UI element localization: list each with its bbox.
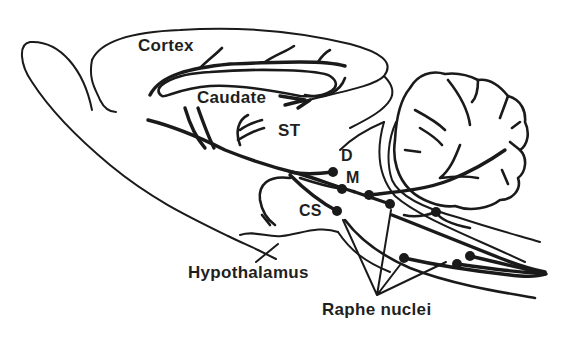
midbrain-outline	[340, 76, 392, 150]
olfactory-bulb-divider	[91, 60, 116, 112]
cerebellum-folia	[405, 80, 520, 184]
cortex-branch-3	[318, 50, 330, 62]
spinal-bundle-upper	[392, 215, 545, 272]
brain-diagram: Cortex Caudate ST D M CS Hypothalamus Ra…	[0, 0, 566, 338]
medial-forebrain-bundle	[148, 120, 390, 204]
caudate-fiber-arrow	[280, 96, 310, 108]
olfactory-bulb-outline	[22, 42, 276, 259]
label-cs: CS	[299, 203, 322, 219]
nucleus-dot-d	[328, 167, 338, 177]
hypothalamus-outline	[240, 229, 338, 236]
septal-fibers	[185, 108, 214, 148]
label-d: D	[341, 148, 353, 164]
hypothalamic-loop	[260, 177, 290, 225]
nucleus-dot-medulla-2	[452, 259, 462, 269]
nucleus-dot-medulla-upper	[431, 207, 441, 217]
raphe-pointer-lines	[343, 210, 446, 295]
label-raphe-nuclei: Raphe nuclei	[322, 301, 431, 318]
label-cortex: Cortex	[138, 37, 194, 54]
nucleus-dot-pons-2	[385, 199, 395, 209]
label-caudate: Caudate	[197, 89, 266, 106]
nucleus-dot-medulla-3	[465, 251, 475, 261]
dorsal-raphe-tract	[290, 172, 333, 174]
label-st: ST	[278, 122, 300, 139]
nucleus-dot-pons-1	[364, 190, 374, 200]
label-hypothalamus: Hypothalamus	[188, 264, 309, 281]
nucleus-dot-medulla-1	[399, 253, 409, 263]
label-m: M	[346, 170, 360, 186]
cortex-branch-2	[265, 46, 294, 62]
striatal-branch	[238, 115, 264, 145]
nucleus-dot-cs	[332, 206, 342, 216]
brain-outline-drawing	[0, 0, 566, 338]
